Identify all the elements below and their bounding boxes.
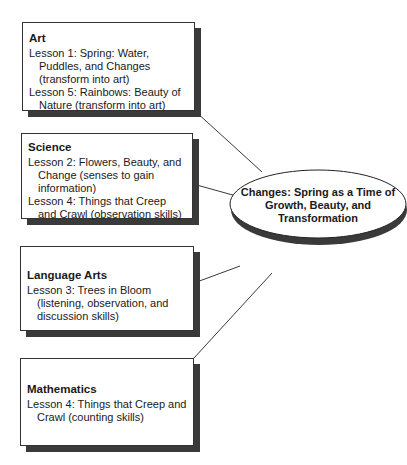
central-topic-line1: Changes: Spring as a Time of <box>232 186 404 199</box>
box-title: Art <box>29 32 188 44</box>
central-topic-line3: Transformation <box>232 212 404 225</box>
lesson-item: Lesson 3: Trees in Bloom (listening, obs… <box>27 284 187 323</box>
lesson-item: Lesson 1: Spring: Water, Puddles, and Ch… <box>29 47 188 86</box>
science-box: Science Lesson 2: Flowers, Beauty, and C… <box>21 133 193 219</box>
language-arts-box: Language Arts Lesson 3: Trees in Bloom (… <box>20 246 194 331</box>
lesson-item: Lesson 2: Flowers, Beauty, and Change (s… <box>28 156 186 195</box>
lesson-item: Lesson 4: Things that Creep and Crawl (c… <box>27 398 187 424</box>
central-topic-line2: Growth, Beauty, and <box>232 199 404 212</box>
lesson-item: Lesson 4: Things that Creep and Crawl (o… <box>28 195 186 221</box>
mathematics-box: Mathematics Lesson 4: Things that Creep … <box>20 358 194 446</box>
central-topic: Changes: Spring as a Time of Growth, Bea… <box>232 186 404 225</box>
lesson-item: Lesson 5: Rainbows: Beauty of Nature (tr… <box>29 86 188 112</box>
box-title: Language Arts <box>27 269 187 281</box>
box-title: Mathematics <box>27 383 187 395</box>
connector-language-arts <box>194 266 240 283</box>
art-box: Art Lesson 1: Spring: Water, Puddles, an… <box>22 22 195 111</box>
connector-art <box>195 111 262 172</box>
box-title: Science <box>28 141 186 153</box>
connector-mathematics <box>194 273 272 358</box>
